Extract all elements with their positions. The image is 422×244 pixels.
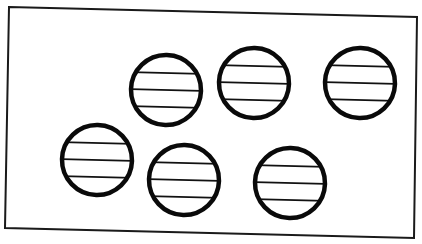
circle-3 — [322, 47, 398, 119]
circle-5 — [146, 144, 222, 216]
circle-1 — [128, 54, 204, 126]
diagram-canvas — [0, 0, 422, 244]
circle-group — [59, 47, 398, 219]
circle-4 — [59, 124, 135, 196]
circle-6 — [252, 147, 328, 219]
circle-2 — [216, 47, 292, 119]
